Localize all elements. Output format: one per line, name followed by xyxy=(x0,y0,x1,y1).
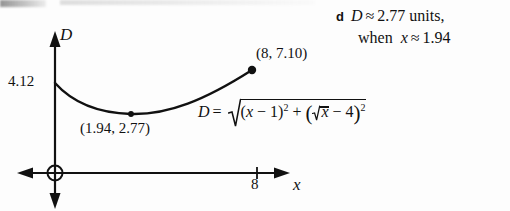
y-axis-arrow-up xyxy=(50,31,61,47)
answer-variable-D: D xyxy=(351,7,363,24)
term1-number: 1 xyxy=(270,103,278,120)
formula-equals: = xyxy=(213,103,222,120)
square-root-outer: (x − 1)2 + ( x − 4)2 xyxy=(228,98,366,124)
surd-glyph-inner xyxy=(312,105,320,121)
endpoint-dot xyxy=(248,66,256,74)
paren-open-2: ( xyxy=(305,101,312,125)
answer-approx-2: ≈ xyxy=(411,29,420,46)
term2-number: 4 xyxy=(346,103,354,120)
term1-variable: x xyxy=(246,103,253,120)
answer-units: units, xyxy=(409,7,444,24)
answer-when-word: when xyxy=(358,29,393,46)
square-root-inner: x xyxy=(312,104,328,120)
x-axis-label: x xyxy=(293,176,301,193)
answer-approx-1: ≈ xyxy=(366,7,375,24)
distance-formula: D= (x − 1)2 + ( x − 4)2 xyxy=(198,98,366,124)
surd-glyph-outer xyxy=(228,98,241,128)
radical-bar-outer xyxy=(240,99,366,100)
term2-minus: − xyxy=(333,103,342,120)
exponent-2: 2 xyxy=(361,102,366,113)
x-axis-arrow-left xyxy=(17,168,33,179)
term1-minus: − xyxy=(257,103,266,120)
minimum-point-dot xyxy=(128,111,134,117)
answer-part-marker: d xyxy=(336,9,344,24)
exponent-1: 2 xyxy=(283,102,288,113)
y-axis-arrow-down xyxy=(50,193,61,209)
y-axis-label: D xyxy=(60,26,72,43)
minimum-point-label: (1.94, 2.77) xyxy=(80,121,150,136)
radicand-outer: (x − 1)2 + ( x − 4)2 xyxy=(241,98,366,124)
x-tick-label-8: 8 xyxy=(251,177,259,192)
answer-value-D: 2.77 xyxy=(377,7,405,24)
answer-variable-x: x xyxy=(401,29,408,46)
formula-lhs: D xyxy=(198,103,210,120)
answer-value-x: 1.94 xyxy=(423,29,451,46)
endpoint-label: (8, 7.10) xyxy=(256,46,307,61)
y-intercept-label: 4.12 xyxy=(8,74,34,89)
answer-block: dD≈2.77 units, when x≈1.94 xyxy=(336,5,510,48)
paren-close-2: ) xyxy=(354,101,361,125)
formula-plus: + xyxy=(292,103,301,120)
answer-line-2: when x≈1.94 xyxy=(336,27,510,48)
radical-sign-outer xyxy=(228,98,241,124)
answer-line-1: dD≈2.77 units, xyxy=(336,5,510,27)
x-axis-arrow-right xyxy=(274,168,290,179)
radical-bar-inner xyxy=(320,106,328,107)
